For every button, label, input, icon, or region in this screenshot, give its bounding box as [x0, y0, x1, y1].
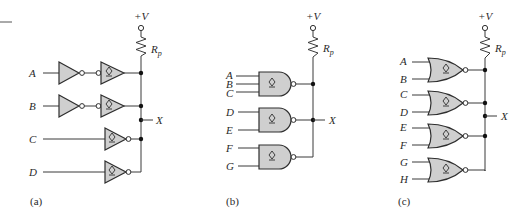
resistor-label-b: Rp — [322, 42, 334, 57]
input-label-G: G — [400, 156, 408, 168]
input-label-E: E — [225, 124, 233, 136]
output-label-a: X — [155, 114, 164, 126]
input-label-A: A — [399, 55, 407, 67]
junction-dot — [139, 71, 143, 75]
junction-dot — [311, 82, 315, 86]
input-label-E: E — [399, 121, 407, 133]
inversion-bubble — [126, 137, 131, 142]
oc-nor-gate — [428, 158, 463, 182]
oc-inverter-gate — [105, 128, 126, 150]
wired-and-figure: +V Rp A B X C — [0, 0, 532, 217]
input-label-C: C — [400, 88, 408, 100]
caption-c: (c) — [398, 195, 411, 208]
oc-buffer-gate — [101, 95, 124, 117]
pullup-resistor-a — [136, 37, 146, 56]
input-label-B: B — [400, 73, 407, 85]
supply-label-c: +V — [478, 10, 493, 22]
junction-dot — [483, 68, 487, 72]
pullup-resistor-b — [308, 37, 318, 57]
oc-nand-gate — [259, 108, 291, 132]
panel-a: +V Rp A B X C — [28, 10, 164, 208]
inversion-bubble — [80, 71, 85, 76]
inverter-gate — [59, 62, 79, 84]
input-label-F: F — [225, 142, 233, 154]
inversion-bubble — [463, 68, 468, 73]
inversion-bubble — [291, 155, 296, 160]
inversion-bubble — [291, 82, 296, 87]
output-label-c: X — [500, 110, 509, 122]
oc-buffer-gate — [101, 62, 124, 84]
inverter-gate — [59, 95, 79, 117]
resistor-label-c: Rp — [494, 42, 506, 57]
inversion-bubble — [463, 134, 468, 139]
junction-dot — [139, 137, 143, 141]
oc-inverter-gate — [105, 161, 126, 183]
oc-nor-gate — [428, 91, 463, 115]
junction-dot — [483, 101, 487, 105]
supply-terminal-c — [482, 25, 487, 30]
input-label-H: H — [399, 173, 409, 185]
oc-nand-gate — [259, 145, 291, 169]
input-label-C: C — [226, 87, 234, 99]
inversion-bubble — [96, 104, 101, 109]
input-label-C: C — [29, 133, 37, 145]
input-label-A: A — [28, 67, 36, 79]
supply-terminal-b — [310, 25, 315, 30]
inversion-bubble — [463, 101, 468, 106]
pullup-resistor-c — [480, 37, 490, 58]
inversion-bubble — [291, 118, 296, 123]
inversion-bubble — [463, 168, 468, 173]
supply-label-b: +V — [306, 10, 321, 22]
input-label-B: B — [29, 100, 36, 112]
input-label-F: F — [399, 139, 407, 151]
oc-nand-gate — [259, 72, 291, 96]
input-label-D: D — [28, 166, 37, 178]
panel-c: +V Rp A B C D X E F — [398, 10, 509, 208]
output-label-b: X — [328, 114, 337, 126]
supply-label-a: +V — [134, 10, 149, 22]
inversion-bubble — [80, 104, 85, 109]
caption-b: (b) — [226, 195, 239, 208]
caption-a: (a) — [30, 195, 43, 208]
junction-dot — [483, 134, 487, 138]
inversion-bubble — [96, 71, 101, 76]
input-label-G: G — [226, 160, 234, 172]
inversion-bubble — [126, 170, 131, 175]
input-label-D: D — [225, 106, 234, 118]
oc-nor-gate — [428, 58, 463, 82]
panel-b: +V Rp A B C D E X F G — [225, 10, 337, 208]
input-label-D: D — [399, 106, 408, 118]
junction-dot — [139, 104, 143, 108]
resistor-label-a: Rp — [150, 43, 162, 58]
supply-terminal-a — [138, 25, 143, 30]
oc-nor-gate — [428, 124, 463, 148]
